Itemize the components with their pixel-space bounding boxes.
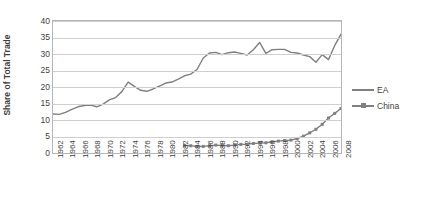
x-tick-label: 1978	[157, 140, 165, 158]
x-tick-label: 1998	[282, 140, 290, 158]
y-tick-label: 30	[26, 50, 50, 59]
series-marker-china	[227, 144, 230, 147]
gridline	[53, 38, 341, 39]
y-tick-label: 5	[26, 132, 50, 141]
y-tick-label: 35	[26, 33, 50, 42]
y-tick-label: 20	[26, 83, 50, 92]
legend-line-icon-0	[352, 85, 374, 95]
x-tick-label: 1986	[207, 140, 215, 158]
x-axis-tick-labels: 1962196419661968197019721974197619781980…	[0, 156, 432, 202]
legend-line-marker-icon-1	[352, 101, 374, 111]
y-axis-label: Share of Total Trade	[2, 0, 16, 150]
legend-item-1[interactable]: China	[352, 98, 430, 114]
x-tick-label: 1974	[132, 140, 140, 158]
series-marker-china	[252, 142, 255, 145]
gridline	[53, 21, 341, 22]
gridline	[53, 104, 341, 105]
x-tick-label: 1992	[244, 140, 252, 158]
y-tick-label: 40	[26, 17, 50, 26]
line-chart: Share of Total Trade 0510152025303540 19…	[0, 0, 432, 202]
series-marker-china	[202, 145, 205, 148]
x-tick-label: 1982	[182, 140, 190, 158]
x-tick-label: 1984	[194, 140, 202, 158]
series-marker-china	[308, 131, 311, 134]
x-tick-label: 1988	[219, 140, 227, 158]
x-tick-label: 1996	[269, 140, 277, 158]
x-tick-label: 1980	[169, 140, 177, 158]
x-tick-label: 1968	[94, 140, 102, 158]
y-tick-label: 15	[26, 99, 50, 108]
x-tick-label: 1990	[232, 140, 240, 158]
series-marker-china	[340, 107, 342, 110]
series-line-ea	[53, 34, 341, 114]
legend-item-0[interactable]: EA	[352, 82, 430, 98]
plot-area	[52, 20, 342, 154]
series-marker-china	[333, 112, 336, 115]
series-marker-china	[321, 123, 324, 126]
y-tick-label: 10	[26, 116, 50, 125]
gridline	[53, 54, 341, 55]
x-tick-label: 2008	[345, 140, 353, 158]
gridline	[53, 71, 341, 72]
x-tick-label: 1970	[107, 140, 115, 158]
x-tick-label: 1966	[82, 140, 90, 158]
x-tick-label: 2002	[307, 140, 315, 158]
x-tick-label: 2006	[332, 140, 340, 158]
x-tick-label: 1962	[57, 140, 65, 158]
gridline	[53, 87, 341, 88]
series-marker-china	[277, 140, 280, 143]
y-tick-label: 25	[26, 66, 50, 75]
x-tick-label: 1964	[69, 140, 77, 158]
x-tick-label: 1994	[257, 140, 265, 158]
chart-legend: EA China	[352, 82, 430, 118]
legend-label-1: China	[377, 101, 399, 111]
x-tick-label: 2004	[319, 140, 327, 158]
series-marker-china	[314, 128, 317, 131]
x-tick-label: 2000	[294, 140, 302, 158]
x-tick-label: 1976	[144, 140, 152, 158]
gridline	[53, 120, 341, 121]
x-tick-label: 1972	[119, 140, 127, 158]
gridline	[53, 137, 341, 138]
legend-label-0: EA	[377, 85, 388, 95]
